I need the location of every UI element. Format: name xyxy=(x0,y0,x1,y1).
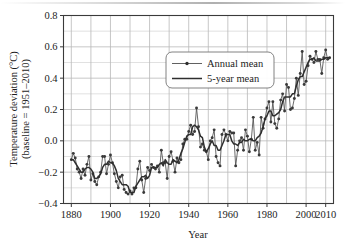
annual-mean-point xyxy=(168,155,171,158)
annual-mean-point xyxy=(222,128,225,131)
x-axis-tick-labels: 18801900192019401960198020002010 xyxy=(61,209,336,220)
y-axis-title-group: Temperature deviation (°C) (baseline = 1… xyxy=(8,51,32,167)
x-tick-label: 1880 xyxy=(61,209,82,220)
annual-mean-point xyxy=(158,171,161,174)
annual-mean-point xyxy=(221,133,224,136)
temperature-deviation-plot: −0.4−0.20.00.20.40.60.8 1880190019201940… xyxy=(0,0,345,244)
annual-mean-point xyxy=(146,166,149,169)
legend-label-five-year-mean: 5-year mean xyxy=(207,73,260,84)
annual-mean-point xyxy=(236,149,239,152)
annual-mean-point xyxy=(213,128,216,131)
annual-mean-point xyxy=(160,149,163,152)
annual-mean-point xyxy=(193,130,196,133)
annual-mean-point xyxy=(305,80,308,83)
annual-mean-point xyxy=(287,86,290,89)
x-tick-label: 2000 xyxy=(296,209,317,220)
annual-mean-point xyxy=(142,191,145,194)
annual-mean-point xyxy=(299,72,302,75)
annual-mean-point xyxy=(105,172,108,175)
x-tick-label: 1980 xyxy=(256,209,277,220)
annual-mean-point xyxy=(84,174,87,177)
chart-figure: −0.4−0.20.00.20.40.60.8 1880190019201940… xyxy=(0,0,345,244)
x-tick-label: 1900 xyxy=(100,209,121,220)
annual-mean-point xyxy=(309,55,312,58)
annual-mean-point xyxy=(248,150,251,153)
annual-mean-point xyxy=(242,149,245,152)
annual-mean-point xyxy=(109,153,112,156)
x-axis-title: Year xyxy=(188,229,208,240)
annual-mean-point xyxy=(303,83,306,86)
annual-mean-point xyxy=(226,139,229,142)
annual-mean-point xyxy=(275,127,278,130)
annual-mean-point xyxy=(199,146,202,149)
annual-mean-point xyxy=(103,155,106,158)
annual-mean-point xyxy=(281,92,284,95)
y-axis-tick-labels: −0.4−0.20.00.20.40.60.8 xyxy=(38,10,58,209)
annual-mean-point xyxy=(215,155,218,158)
annual-mean-point xyxy=(127,193,130,196)
y-tick-label: 0.0 xyxy=(44,135,57,146)
legend-marker-annual-mean xyxy=(185,62,188,65)
annual-mean-point xyxy=(240,136,243,139)
annual-mean-point xyxy=(80,177,83,180)
annual-mean-point xyxy=(189,124,192,127)
annual-mean-point xyxy=(285,83,288,86)
annual-mean-point xyxy=(166,177,169,180)
y-axis-title: Temperature deviation (°C) xyxy=(8,51,20,167)
annual-mean-point xyxy=(150,163,153,166)
annual-mean-point xyxy=(234,164,237,167)
annual-mean-point xyxy=(232,132,235,135)
annual-mean-point xyxy=(187,130,190,133)
annual-mean-point xyxy=(95,183,98,186)
annual-mean-point xyxy=(279,99,282,102)
annual-mean-point xyxy=(72,152,75,155)
annual-mean-point xyxy=(87,155,90,158)
annual-mean-point xyxy=(217,161,220,164)
x-tick-label: 1940 xyxy=(178,209,199,220)
annual-mean-point xyxy=(211,136,214,139)
annual-mean-point xyxy=(123,188,126,191)
annual-mean-point xyxy=(252,116,255,119)
annual-mean-point xyxy=(174,171,177,174)
annual-mean-point xyxy=(89,179,92,182)
annual-mean-point xyxy=(320,72,323,75)
annual-mean-point xyxy=(244,128,247,131)
legend-label-annual-mean: Annual mean xyxy=(207,58,264,69)
x-tick-label: 1920 xyxy=(139,209,160,220)
y-tick-label: 0.6 xyxy=(44,41,57,52)
x-tick-label: 2010 xyxy=(315,209,336,220)
y-tick-label: −0.2 xyxy=(38,167,57,178)
annual-mean-point xyxy=(312,61,315,64)
annual-mean-point xyxy=(117,186,120,189)
y-tick-label: 0.8 xyxy=(44,10,57,21)
annual-mean-point xyxy=(207,158,210,161)
annual-mean-point xyxy=(271,100,274,103)
annual-mean-point xyxy=(195,106,198,109)
annual-mean-point xyxy=(113,172,116,175)
annual-mean-point xyxy=(219,164,222,167)
annual-mean-point xyxy=(246,135,249,138)
annual-mean-point xyxy=(266,106,269,109)
chart-legend: Annual mean 5-year mean xyxy=(166,52,274,88)
y-axis-title-baseline: (baseline = 1951–2010) xyxy=(20,59,32,159)
annual-mean-point xyxy=(176,157,179,160)
annual-mean-point xyxy=(295,77,298,80)
annual-mean-point xyxy=(138,160,141,163)
annual-mean-point xyxy=(283,110,286,113)
annual-mean-point xyxy=(291,106,294,109)
annual-mean-point xyxy=(324,49,327,52)
annual-mean-point xyxy=(74,157,77,160)
y-tick-label: 0.2 xyxy=(44,104,57,115)
annual-mean-point xyxy=(254,149,257,152)
annual-mean-point xyxy=(293,97,296,100)
annual-mean-point xyxy=(314,50,317,53)
annual-mean-point xyxy=(258,153,261,156)
annual-mean-point xyxy=(86,163,89,166)
annual-mean-point xyxy=(115,180,118,183)
annual-mean-point xyxy=(297,94,300,97)
annual-mean-point xyxy=(277,117,280,120)
annual-mean-point xyxy=(267,100,270,103)
annual-mean-point xyxy=(121,174,124,177)
x-tick-label: 1960 xyxy=(217,209,238,220)
annual-mean-point xyxy=(136,168,139,171)
